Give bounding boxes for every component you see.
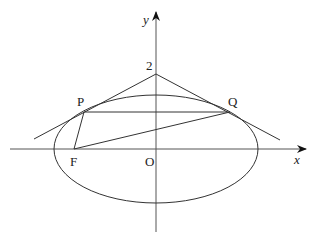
segment-pf (74, 112, 84, 149)
tangent-line-right (156, 74, 280, 140)
apex-label: 2 (146, 58, 153, 73)
ellipse-diagram: y x 2 P Q F O (0, 0, 315, 247)
point-f-label: F (70, 154, 77, 169)
x-axis-label: x (293, 152, 300, 167)
y-axis-label: y (141, 12, 149, 27)
segment-fq (74, 112, 230, 149)
origin-label: O (145, 154, 154, 169)
point-q-label: Q (228, 94, 238, 109)
point-p-label: P (77, 94, 84, 109)
tangent-line-left (34, 74, 156, 139)
